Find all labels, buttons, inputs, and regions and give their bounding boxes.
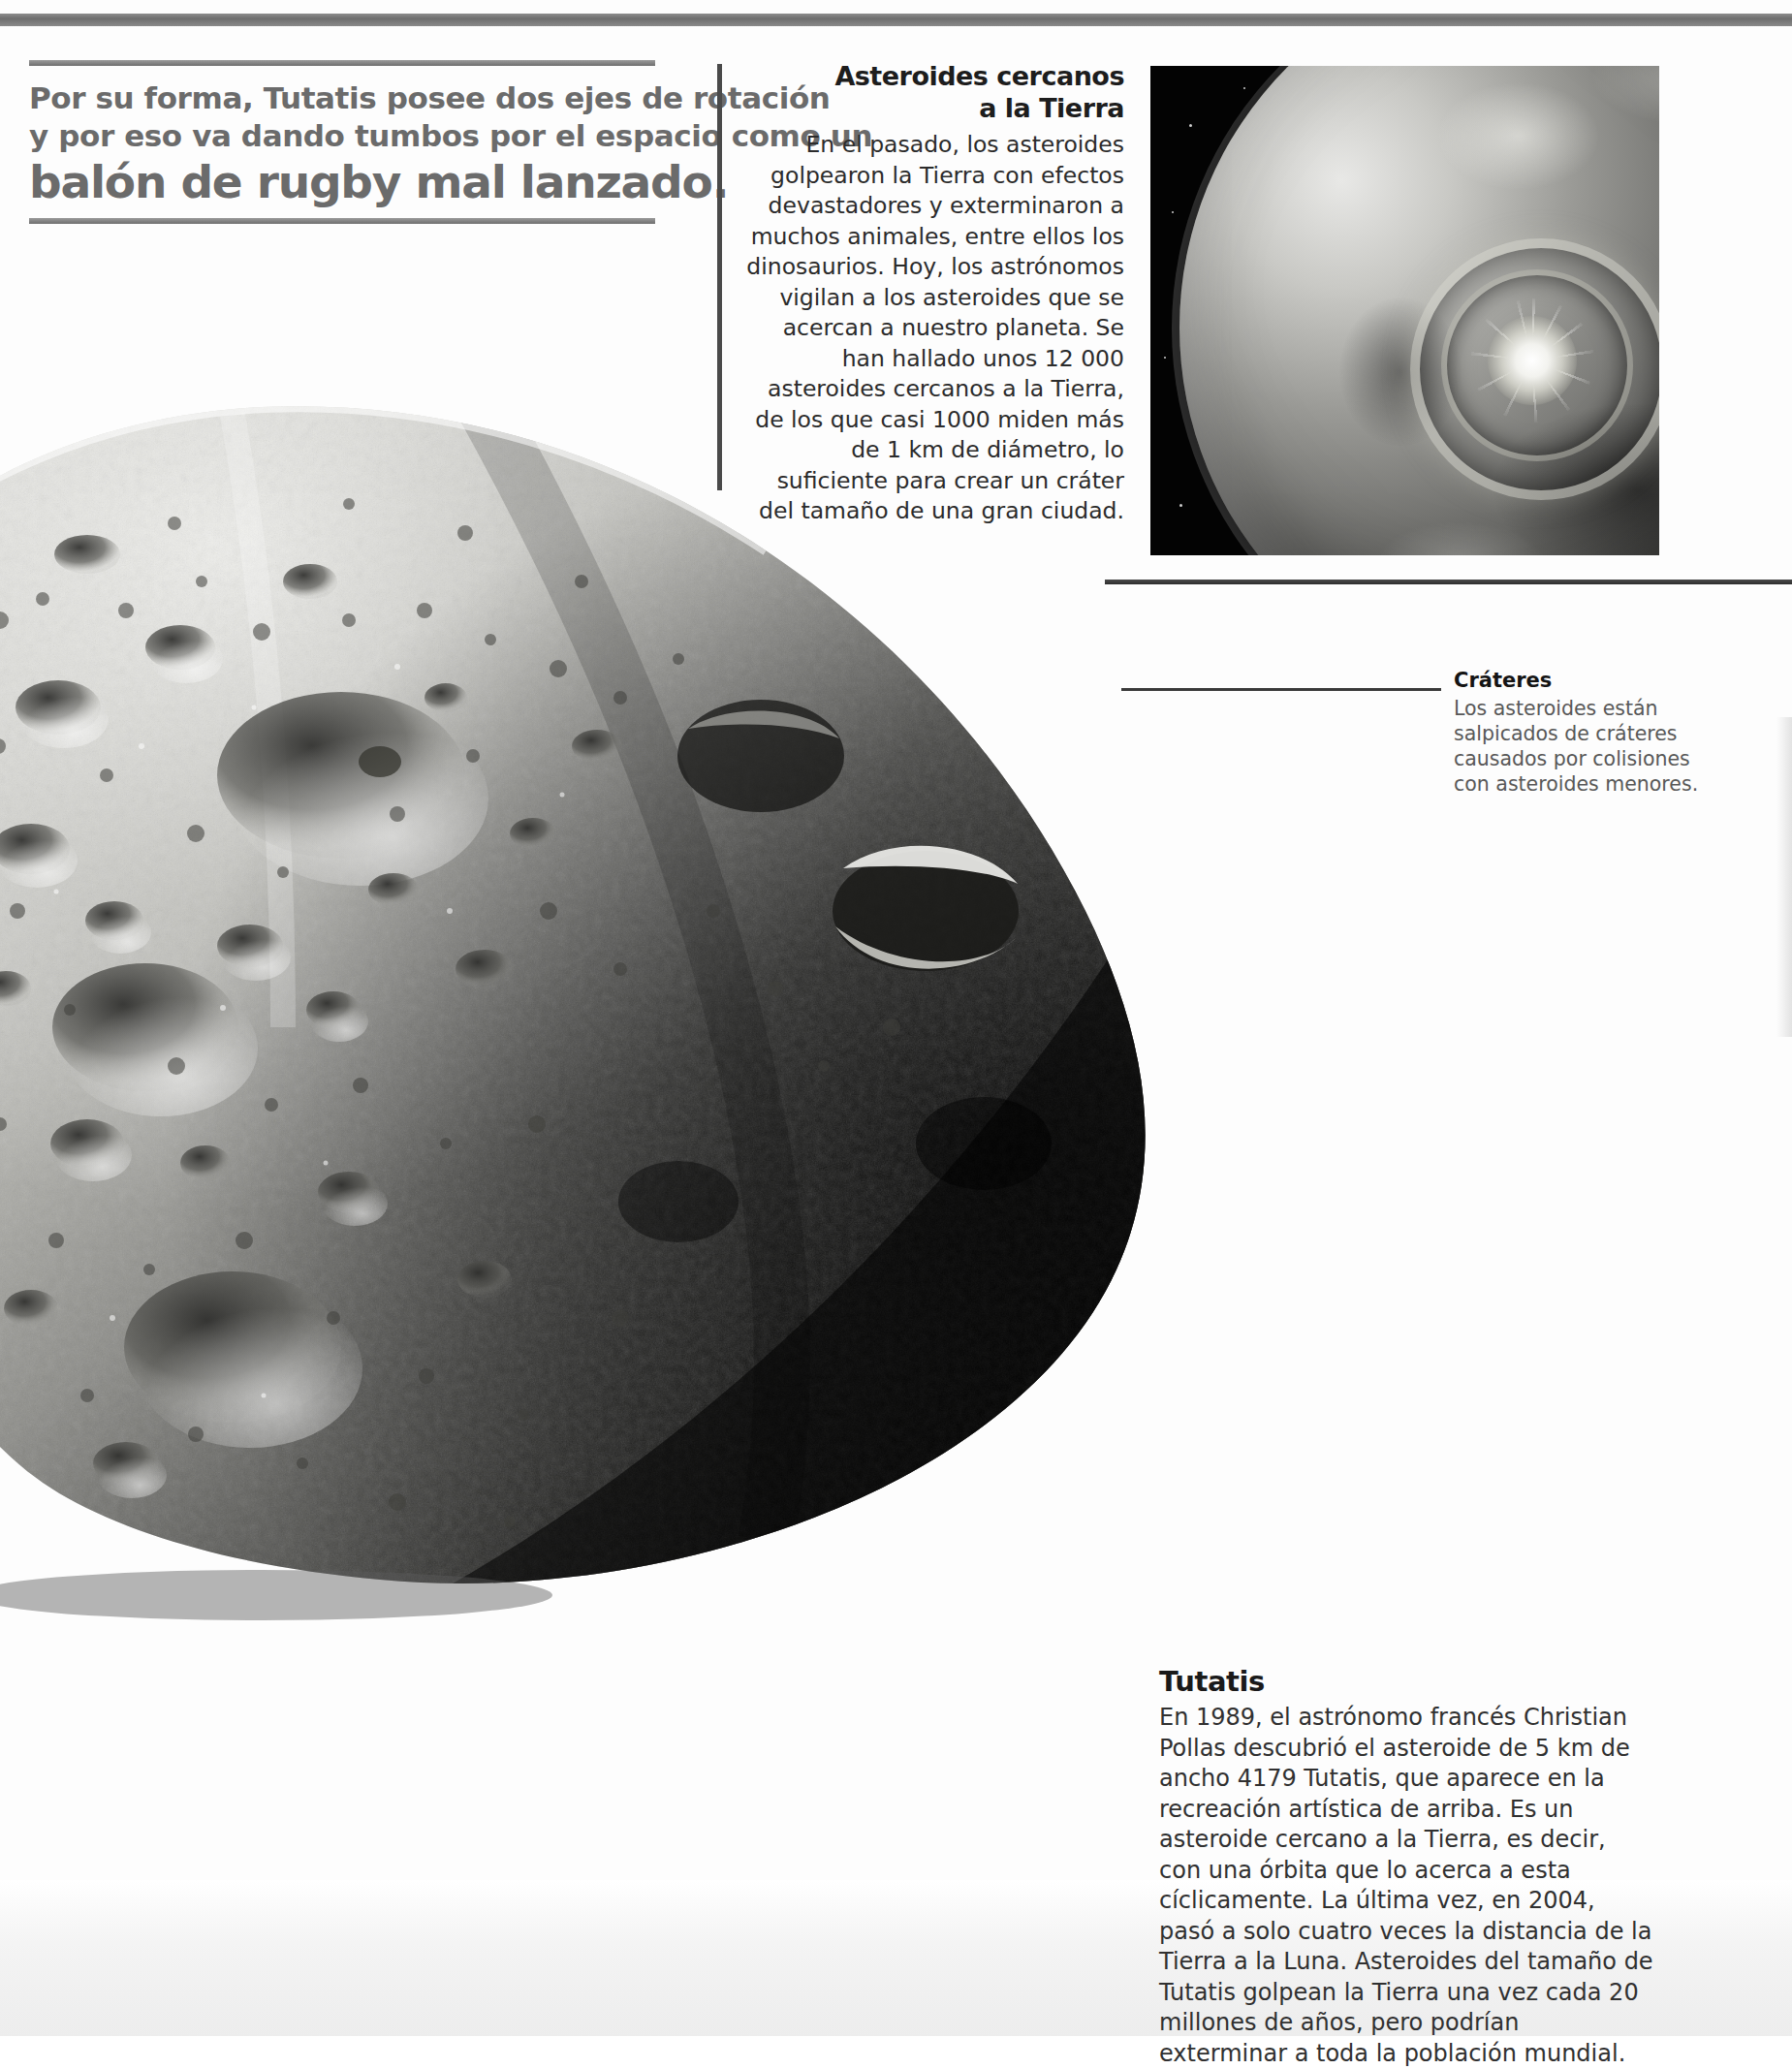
headline-rule-top: [29, 60, 655, 66]
star-icon: [1164, 357, 1166, 359]
star-icon: [1172, 211, 1174, 213]
crater-large-dark-lower-right: [916, 1097, 1052, 1190]
near-earth-body-text: En el pasado, los asteroides golpearon l…: [746, 130, 1124, 527]
tutatis-body-text: En 1989, el astrónomo francés Christian …: [1159, 1703, 1653, 2069]
crater-field-medium: [0, 535, 622, 1485]
crater-field-small: [0, 498, 900, 1528]
crateres-callout-body: Los asteroides están salpicados de cráte…: [1454, 696, 1706, 797]
headline-line-2: y por eso va dando tumbos por el espacio…: [29, 117, 669, 155]
tutatis-title: Tutatis: [1159, 1665, 1653, 1698]
star-icon: [1189, 124, 1192, 127]
near-earth-title: Asteroides cercanos a la Tierra: [746, 60, 1124, 124]
asteroid-body: [0, 368, 1231, 1647]
crater-large-lower-left: [124, 1271, 362, 1448]
headline-line-3: balón de rugby mal lanzado.: [29, 155, 669, 208]
tutatis-asteroid-artwork: [0, 291, 1231, 2035]
column-divider: [717, 64, 722, 490]
impact-flash-core: [1488, 316, 1577, 405]
paper-edge-artifact: [1776, 717, 1792, 1037]
crater-bright-rim-right: [833, 846, 1019, 971]
crater-large-upper: [217, 692, 488, 886]
crater-field-medium-rims: [0, 635, 388, 1498]
earth-asteroid-impact-photo: [1150, 66, 1659, 555]
crateres-callout: Cráteres Los asteroides están salpicados…: [1454, 669, 1706, 797]
star-icon: [1243, 87, 1245, 89]
near-earth-asteroids-column: Asteroides cercanos a la Tierra En el pa…: [746, 60, 1124, 527]
crater-shadowed-right: [677, 700, 844, 812]
crateres-leader-line: [1121, 688, 1441, 691]
headline-block: Por su forma, Tutatis posee dos ejes de …: [29, 60, 669, 224]
page-top-rule: [0, 14, 1792, 26]
headline-line-1: Por su forma, Tutatis posee dos ejes de …: [29, 79, 669, 117]
crater-mid-right: [618, 1161, 739, 1242]
headline-rule-bottom: [29, 218, 655, 224]
crater-field-specks: [54, 664, 565, 1398]
tutatis-block: Tutatis En 1989, el astrónomo francés Ch…: [1159, 1665, 1653, 2069]
near-earth-title-line-2: a la Tierra: [746, 92, 1124, 124]
star-icon: [1179, 504, 1182, 507]
asteroid-contact-shadow: [0, 1570, 552, 1620]
crateres-callout-title: Cráteres: [1454, 669, 1706, 693]
crater-large-left: [52, 963, 258, 1116]
section-divider-rule: [1105, 580, 1792, 584]
near-earth-title-line-1: Asteroides cercanos: [746, 60, 1124, 92]
